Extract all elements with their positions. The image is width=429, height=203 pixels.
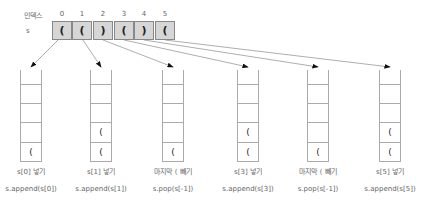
stack-slot <box>163 122 183 141</box>
stack-slot <box>238 103 258 122</box>
stack-slot: ( <box>91 122 111 141</box>
stack-slot <box>308 84 328 103</box>
stack-slot <box>91 84 111 103</box>
array-cell-2: ) <box>93 21 113 40</box>
stack-slot: ( <box>380 142 400 162</box>
stack-slot <box>91 103 111 122</box>
stack-slot <box>163 103 183 122</box>
code-caption-5: s.append(s[5]) <box>355 185 425 193</box>
step-caption-1: s[1] 넣기 <box>66 166 136 176</box>
code-caption-2: s.pop(s[-1]) <box>138 185 208 193</box>
index-1: 1 <box>72 10 92 18</box>
index-3: 3 <box>114 10 134 18</box>
code-caption-1: s.append(s[1]) <box>66 185 136 193</box>
stack-slot: ( <box>380 122 400 141</box>
stack-slot <box>308 103 328 122</box>
stack-slot: ( <box>21 142 41 162</box>
stack-slot: ( <box>308 142 328 162</box>
stack-slot: ( <box>163 142 183 162</box>
index-2: 2 <box>93 10 113 18</box>
stack-slot <box>163 84 183 103</box>
stack-slot <box>21 84 41 103</box>
stack-slot <box>21 103 41 122</box>
arrow-1 <box>83 40 101 67</box>
step-caption-2: 마지막 ( 빼기 <box>138 166 208 176</box>
arrow-5 <box>165 40 390 67</box>
code-caption-3: s.append(s[3]) <box>213 185 283 193</box>
step-caption-4: 마지막 ( 빼기 <box>283 166 353 176</box>
index-0: 0 <box>52 10 72 18</box>
stack-slot: ( <box>238 142 258 162</box>
code-caption-0: s.append(s[0]) <box>0 185 66 193</box>
stack-5: ( ( <box>379 70 401 162</box>
arrow-0 <box>31 40 58 67</box>
array-cell-1: ( <box>72 21 92 40</box>
stack-4: ( <box>307 70 329 162</box>
stack-0: ( <box>20 70 42 162</box>
stack-slot <box>380 84 400 103</box>
array-cell-5: ( <box>155 21 175 40</box>
stack-slot <box>238 84 258 103</box>
arrow-2 <box>103 40 173 67</box>
stack-3: ( ( <box>237 70 259 162</box>
index-4: 4 <box>134 10 154 18</box>
array-cell-3: ( <box>114 21 134 40</box>
step-caption-0: s[0] 넣기 <box>0 166 66 176</box>
stack-2: ( <box>162 70 184 162</box>
array-name-label: s <box>26 27 30 35</box>
stack-slot: ( <box>91 142 111 162</box>
step-caption-5: s[5] 넣기 <box>355 166 425 176</box>
stack-slot <box>21 122 41 141</box>
array-cell-0: ( <box>52 21 72 40</box>
stack-slot <box>308 122 328 141</box>
index-5: 5 <box>155 10 175 18</box>
index-label: 인덱스 <box>24 10 42 20</box>
code-caption-4: s.pop(s[-1]) <box>283 185 353 193</box>
stack-slot: ( <box>238 122 258 141</box>
stack-1: ( ( <box>90 70 112 162</box>
stack-slot <box>380 103 400 122</box>
step-caption-3: s[3] 넣기 <box>213 166 283 176</box>
array-cell-4: ) <box>134 21 154 40</box>
